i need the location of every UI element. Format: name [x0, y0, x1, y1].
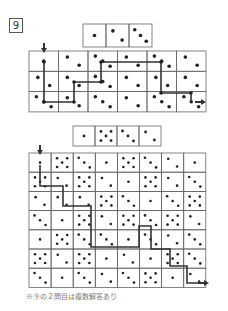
pip-dot	[188, 195, 191, 198]
pip-dot	[109, 223, 112, 226]
pip-dot	[123, 253, 126, 256]
grid-cell	[51, 191, 73, 210]
pip-dot	[44, 262, 47, 265]
pip-dot	[144, 185, 147, 188]
pip-dot	[122, 214, 125, 217]
pip-dot	[94, 75, 98, 79]
pip-dot	[155, 243, 158, 246]
pip-dot	[144, 214, 147, 217]
pip-dot	[176, 165, 179, 168]
pip-dot	[100, 139, 103, 142]
caption-note: ※⑨の２問目は複数解答あり	[26, 291, 117, 301]
pip-dot	[198, 223, 201, 226]
pip-dot	[56, 196, 59, 199]
pip-dot	[144, 131, 147, 134]
path-node	[189, 91, 193, 95]
pip-dot	[66, 157, 69, 160]
pip-dot	[44, 176, 47, 179]
pip-dot	[88, 262, 91, 265]
pip-dot	[132, 261, 135, 264]
pip-dot	[88, 185, 91, 188]
pip-dot	[35, 95, 39, 99]
pip-dot	[78, 262, 81, 265]
puzzle-canvas	[0, 0, 228, 311]
pip-dot	[43, 204, 46, 207]
grid-cell	[177, 71, 207, 91]
pip-dot	[136, 104, 140, 108]
grid-cell	[73, 191, 95, 210]
pip-dot	[83, 181, 86, 184]
pip-dot	[171, 200, 174, 203]
sequence-die	[106, 24, 129, 47]
pip-dot	[121, 130, 124, 133]
grid-cell	[95, 172, 117, 191]
pip-dot	[105, 200, 108, 203]
pip-dot	[111, 243, 114, 246]
pip-dot	[132, 223, 135, 226]
pip-dot	[88, 253, 91, 256]
pip-dot	[56, 157, 59, 160]
pip-dot	[127, 161, 130, 164]
grid-cell	[118, 92, 148, 112]
pip-dot	[88, 281, 91, 284]
pip-dot	[193, 200, 196, 203]
pip-dot	[39, 238, 42, 241]
pip-dot	[56, 234, 59, 237]
pip-dot	[132, 214, 135, 217]
pip-dot	[171, 257, 174, 260]
pip-dot	[100, 130, 103, 133]
pip-dot	[166, 214, 169, 217]
pip-dot	[83, 238, 86, 241]
pip-dot	[66, 166, 69, 169]
pip-dot	[176, 242, 179, 245]
pip-dot	[105, 135, 108, 138]
pip-dot	[154, 176, 157, 179]
pip-dot	[122, 272, 125, 275]
pip-dot	[166, 223, 169, 226]
pip-dot	[101, 215, 104, 218]
pip-dot	[176, 223, 179, 226]
pip-dot	[33, 214, 36, 217]
path-node	[72, 80, 76, 84]
pip-dot	[171, 277, 174, 280]
pip-dot	[78, 223, 81, 226]
pip-dot	[184, 55, 188, 59]
pip-dot	[110, 204, 113, 207]
pip-dot	[66, 234, 69, 237]
pip-dot	[44, 281, 47, 284]
pip-dot	[83, 161, 86, 164]
pip-dot	[184, 76, 188, 80]
pip-dot	[153, 95, 157, 99]
pip-dot	[136, 63, 140, 67]
grid-cell	[162, 172, 184, 191]
pip-dot	[195, 84, 199, 88]
grid-cell	[117, 249, 139, 268]
path-node	[99, 80, 103, 84]
pip-dot	[188, 233, 191, 236]
pip-dot	[36, 76, 40, 80]
pip-dot	[171, 219, 174, 222]
pip-dot	[154, 185, 157, 188]
pip-dot	[177, 205, 180, 208]
path-node	[99, 60, 103, 64]
pip-dot	[110, 130, 113, 133]
pip-dot	[105, 238, 108, 241]
pip-dot	[133, 28, 137, 32]
pip-dot	[139, 34, 143, 38]
pip-dot	[167, 105, 171, 109]
pip-dot	[149, 257, 152, 260]
pip-dot	[166, 262, 169, 265]
pip-dot	[199, 185, 202, 188]
pip-dot	[56, 243, 59, 246]
pip-dot	[100, 233, 103, 236]
end-arrow-icon	[204, 280, 209, 286]
pip-dot	[109, 280, 112, 283]
pip-dot	[78, 176, 81, 179]
pip-dot	[77, 104, 81, 108]
pip-dot	[144, 233, 147, 236]
pip-dot	[61, 219, 64, 222]
pip-dot	[88, 176, 91, 179]
pip-dot	[34, 176, 37, 179]
pip-dot	[83, 135, 86, 138]
grid-cell	[51, 172, 73, 191]
